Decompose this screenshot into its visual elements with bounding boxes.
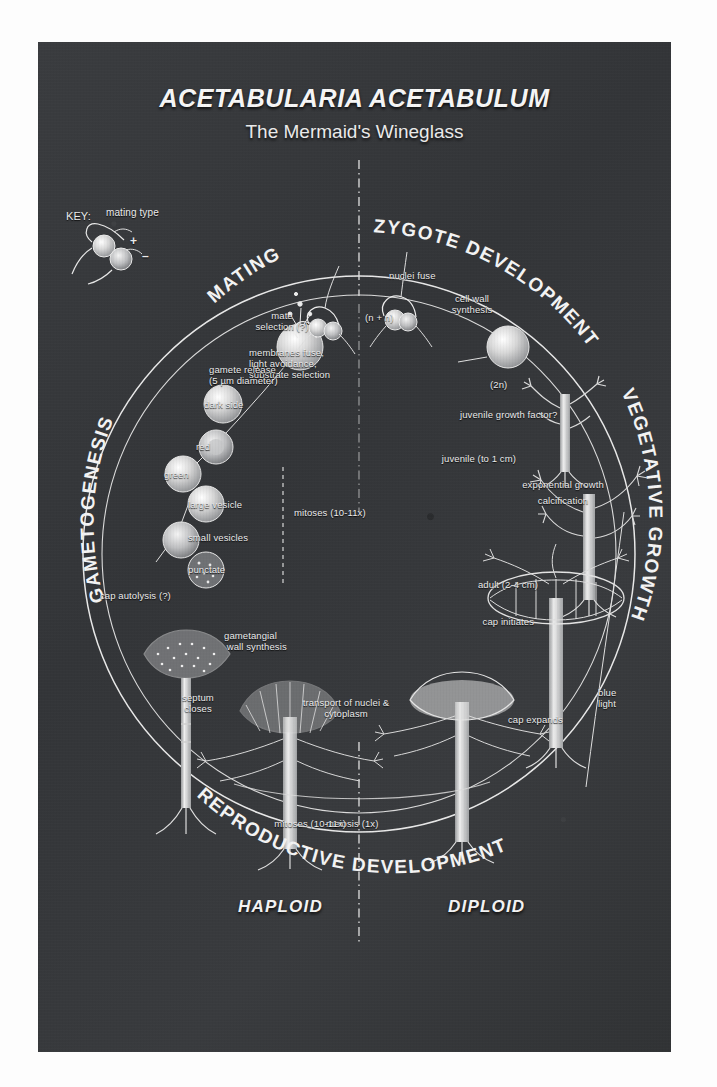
- annotation-cell-wall-synthesis: cell wallsynthesis: [436, 293, 508, 315]
- key-plus-symbol: +: [130, 236, 137, 247]
- annotation-juvenile-growth-factor: juvenile growth factor?: [460, 409, 557, 420]
- annotation-dark-side: dark side: [204, 399, 243, 410]
- annotation-septum-closes: septumcloses: [168, 692, 228, 714]
- key-minus-symbol: –: [142, 251, 149, 262]
- lifecycle-vector-layer: MATING ZYGOTE DEVELOPMENT VEGETATIVE GRO…: [38, 42, 671, 1052]
- annotation-cap-initiates: cap initiates: [430, 616, 534, 627]
- phase-label-vegetative-growth: VEGETATIVE GROWTH: [618, 385, 667, 625]
- annotation-mitoses-bottom: mitoses (10-11x): [216, 818, 346, 829]
- annotation-n-plus-n: (n + n): [365, 312, 393, 323]
- annotation-punctate: punctate: [188, 564, 225, 575]
- annotation-mate-selection: mateselection (?): [246, 310, 318, 332]
- phase-label-mating: MATING: [203, 243, 284, 307]
- key-label: KEY:: [66, 211, 91, 222]
- annotation-cap-autolysis: cap autolysis (?): [100, 590, 171, 601]
- annotation-gamete-release: gamete release(5 µm diameter): [209, 364, 278, 386]
- annotation-small-vesicles: small vesicles: [188, 532, 248, 543]
- annotation-large-vesicle: large vesicle: [188, 499, 242, 510]
- key-caption: mating type: [106, 207, 159, 218]
- annotation-adult: adult (2-4 cm): [416, 579, 538, 590]
- annotation-red: red: [196, 441, 210, 452]
- annotation-blue-light: bluelight: [598, 687, 616, 709]
- annotation-nuclei-fuse: nuclei fuse: [389, 270, 436, 281]
- ploidy-label-diploid: DIPLOID: [448, 897, 525, 917]
- annotation-2n: (2n): [490, 379, 507, 390]
- page-canvas: ACETABULARIA ACETABULUM The Mermaid's Wi…: [0, 0, 717, 1087]
- ploidy-label-haploid: HAPLOID: [238, 897, 323, 917]
- diagram-panel: ACETABULARIA ACETABULUM The Mermaid's Wi…: [38, 42, 671, 1052]
- annotation-transport: transport of nuclei &cytoplasm: [282, 697, 410, 719]
- annotation-gametangial-wall: gametangial wall synthesis: [224, 630, 287, 652]
- key-gamete-pair-icon: [68, 222, 178, 292]
- annotation-cap-expands: cap expands: [508, 714, 563, 725]
- annotation-mitoses-side: mitoses (10-11x): [294, 507, 366, 518]
- annotation-exponential-growth: exponential growth: [502, 479, 624, 490]
- annotation-calcification: calcification: [502, 495, 624, 506]
- annotation-green: green: [164, 469, 189, 480]
- key-legend: KEY: mating type + –: [66, 206, 91, 224]
- phase-label-gametogenesis: GAMETOGENESIS: [76, 413, 117, 606]
- annotation-juvenile: juvenile (to 1 cm): [386, 453, 516, 464]
